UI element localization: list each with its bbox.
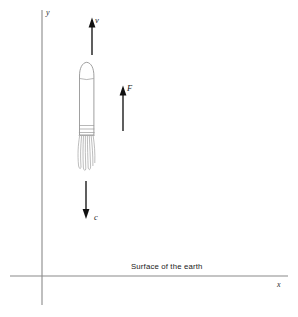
vector-force — [120, 86, 127, 132]
axes-group — [10, 10, 288, 305]
vector-force-arrowhead — [120, 86, 127, 96]
rocket-diagram-figure: v F c y x Surface of the earth — [0, 0, 298, 317]
vector-exhaust-arrowhead — [83, 209, 90, 219]
y-axis-label: y — [46, 9, 50, 17]
vector-exhaust-label: c — [94, 213, 98, 222]
surface-of-earth-label: Surface of the earth — [131, 263, 202, 271]
vector-force-label: F — [127, 84, 132, 93]
rocket-graphic — [78, 62, 95, 170]
vector-exhaust — [83, 181, 90, 219]
rocket-exhaust — [78, 136, 95, 170]
vector-velocity-label: v — [95, 16, 99, 25]
x-axis-label: x — [277, 281, 281, 289]
rocket-body — [80, 62, 94, 135]
